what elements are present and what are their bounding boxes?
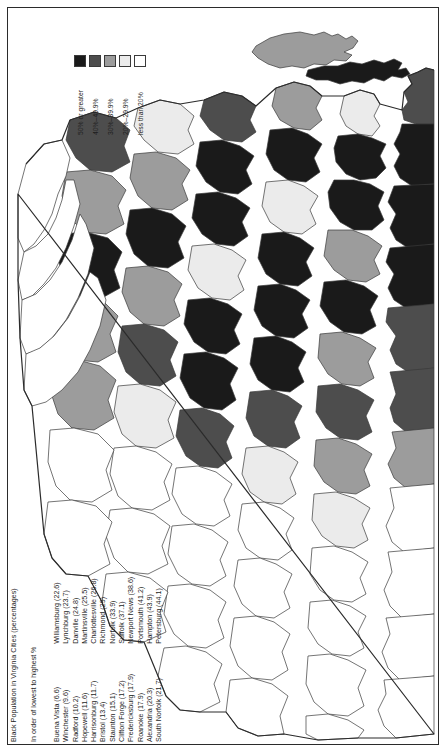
caption-block: Black Population in Virginia Cities (per… <box>10 524 210 742</box>
legend-label-slot: 40%–49.9% <box>89 73 101 135</box>
region-east-4 <box>386 304 434 372</box>
region-b10 <box>310 546 368 602</box>
list-item: Norfolk (33.9) <box>109 577 118 644</box>
legend-swatch-50-plus <box>74 55 86 67</box>
region-d5 <box>184 298 242 354</box>
region-east-10 <box>378 676 434 738</box>
legend-label-row: 50% or greater 40%–49.9% 30%–39.9% 20%–2… <box>74 73 146 135</box>
list-item: Richmond (29) <box>99 577 108 644</box>
region-east-2 <box>388 184 434 248</box>
region-e5 <box>118 324 178 386</box>
region-b13 <box>306 714 364 740</box>
list-item: Bristol (13.4) <box>99 674 108 742</box>
legend-label-20-29: 20%–29.9% <box>122 98 129 135</box>
region-c9 <box>238 502 294 560</box>
legend-swatch-row <box>74 55 146 67</box>
legend-label-40-49: 40%–49.9% <box>92 98 99 135</box>
list-item: Martinsville (25.5) <box>81 577 90 644</box>
map-legend: 50% or greater 40%–49.9% 30%–39.9% 20%–2… <box>70 50 166 160</box>
list-item: Staunton (15.1) <box>109 674 118 742</box>
legend-label-slot: 30%–39.9% <box>104 73 116 135</box>
list-item: Radford (10.2) <box>72 674 81 742</box>
legend-swatch-40-49 <box>89 55 101 67</box>
region-b5 <box>320 280 378 334</box>
region-e6 <box>114 384 176 448</box>
region-b6 <box>318 332 376 386</box>
region-eastern-shore-north <box>252 32 358 68</box>
region-b12 <box>306 654 366 716</box>
list-item: Harrisonburg (11.7) <box>90 674 99 742</box>
region-east-3 <box>386 244 434 308</box>
legend-label-slot: 50% or greater <box>74 73 86 135</box>
region-f6 <box>48 428 114 502</box>
figure-subtitle: In order of lowest to highest % <box>30 588 39 742</box>
legend-swatch-20-29 <box>119 55 131 67</box>
legend-label-under-20: less than 20% <box>137 92 144 135</box>
list-item: Williamsburg (22.6) <box>53 577 62 644</box>
region-east-7 <box>386 484 434 552</box>
region-east-5 <box>390 368 434 432</box>
list-item: Lynchburg (23.7) <box>62 577 71 644</box>
region-east-6 <box>388 428 434 488</box>
region-east-1 <box>394 124 434 186</box>
region-east-8 <box>384 548 434 618</box>
list-item: South Norfolk (21.7) <box>155 674 164 742</box>
list-item: Roanoke (17.9) <box>137 674 146 742</box>
region-b9 <box>312 492 370 548</box>
region-c12 <box>226 678 288 736</box>
list-item: Winchester (9.6) <box>62 674 71 742</box>
list-item: Hampton (43.9) <box>146 577 155 644</box>
legend-label-30-39: 30%–39.9% <box>107 98 114 135</box>
region-b8 <box>314 438 372 494</box>
region-c4 <box>258 232 314 286</box>
region-c10 <box>234 558 292 618</box>
region-b1 <box>340 90 380 136</box>
figure-page: 50% or greater 40%–49.9% 30%–39.9% 20%–2… <box>0 0 448 754</box>
region-e2 <box>130 152 190 210</box>
list-item: Petersburg (44.1) <box>155 577 164 644</box>
list-item: Hopewell (11.6) <box>81 674 90 742</box>
city-list-column-2: Williamsburg (22.6) Lynchburg (23.7) Dan… <box>53 577 165 644</box>
region-d2 <box>196 140 254 194</box>
legend-swatch-under-20 <box>134 55 146 67</box>
legend-swatch-30-39 <box>104 55 116 67</box>
legend-label-50-plus: 50% or greater <box>77 90 84 135</box>
city-list: Buena Vista (6.6) Winchester (9.6) Radfo… <box>53 577 165 742</box>
list-item: Newport News (38.6) <box>127 577 136 644</box>
region-east-9 <box>382 614 434 680</box>
list-item: Suffolk (37.1) <box>118 577 127 644</box>
list-item: Danville (24.8) <box>72 577 81 644</box>
list-item: Fredericksburg (17.9) <box>127 674 136 742</box>
region-c6 <box>250 336 306 392</box>
legend-label-slot: 20%–29.9% <box>119 73 131 135</box>
region-b2 <box>334 134 386 180</box>
legend-label-slot: less than 20% <box>134 73 146 135</box>
region-d7 <box>176 408 234 468</box>
list-item: Clifton Forge (17.2) <box>118 674 127 742</box>
region-c7 <box>246 390 302 448</box>
region-b3 <box>328 180 384 230</box>
region-e3 <box>126 208 186 268</box>
region-d6 <box>180 352 238 410</box>
region-c2 <box>266 128 322 182</box>
region-e4 <box>122 266 182 326</box>
region-d4 <box>188 244 246 300</box>
list-item: Alexandria (20.3) <box>146 674 155 742</box>
region-b4 <box>324 230 382 282</box>
region-b7 <box>316 384 374 440</box>
region-e7 <box>110 446 172 510</box>
region-c11 <box>230 616 290 680</box>
list-item: Portsmouth (41.2) <box>137 577 146 644</box>
list-item: Buena Vista (6.6) <box>53 674 62 742</box>
title-group: Black Population in Virginia Cities (per… <box>10 588 39 742</box>
list-item: Charlottesville (26.8) <box>90 577 99 644</box>
region-d3 <box>192 192 250 246</box>
city-list-column-1: Buena Vista (6.6) Winchester (9.6) Radfo… <box>53 674 165 742</box>
region-c5 <box>254 284 310 338</box>
region-ne-corner-dark <box>402 68 434 124</box>
figure-title: Black Population in Virginia Cities (per… <box>10 588 19 742</box>
region-d8 <box>172 466 232 526</box>
region-c3 <box>262 180 318 234</box>
